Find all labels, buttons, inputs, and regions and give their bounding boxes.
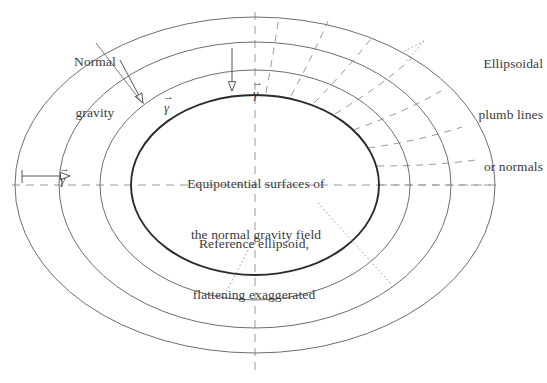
- plumb-lines-label-line1: Ellipsoidal: [397, 55, 543, 72]
- gamma-glyph-upper-mid: γ: [253, 86, 258, 102]
- plumb-line-1: [266, 16, 279, 93]
- gamma-glyph-left: γ: [60, 172, 65, 188]
- equipotential-label-line1: Equipotential surfaces of: [150, 175, 362, 192]
- normal-gravity-label-line1: Normal: [40, 53, 150, 70]
- gamma-symbol-upper-mid: γ: [240, 70, 258, 118]
- plumb-line-2: [291, 21, 328, 96]
- gamma-symbol-left: γ: [47, 156, 65, 204]
- normal-gravity-label-line2: gravity: [40, 104, 150, 121]
- normal-gravity-label: Normal gravity: [40, 18, 150, 156]
- reference-ellipsoid-label: Reference ellipsoid, flattening exaggera…: [148, 200, 360, 338]
- reference-ellipsoid-label-line1: Reference ellipsoid,: [148, 235, 360, 252]
- reference-ellipsoid-label-line2: flattening exaggerated: [148, 286, 360, 303]
- plumb-lines-label-line2: plumb lines: [397, 106, 543, 123]
- plumb-lines-label-line3: or normals: [397, 158, 543, 175]
- gamma-symbol-upper-left: γ: [151, 84, 169, 132]
- gravity-field-diagram: Normal gravity Ellipsoidal plumb lines o…: [0, 0, 547, 383]
- plumb-line-3: [314, 35, 374, 103]
- plumb-lines-label: Ellipsoidal plumb lines or normals: [397, 20, 543, 210]
- gamma-glyph-upper-left: γ: [164, 100, 169, 116]
